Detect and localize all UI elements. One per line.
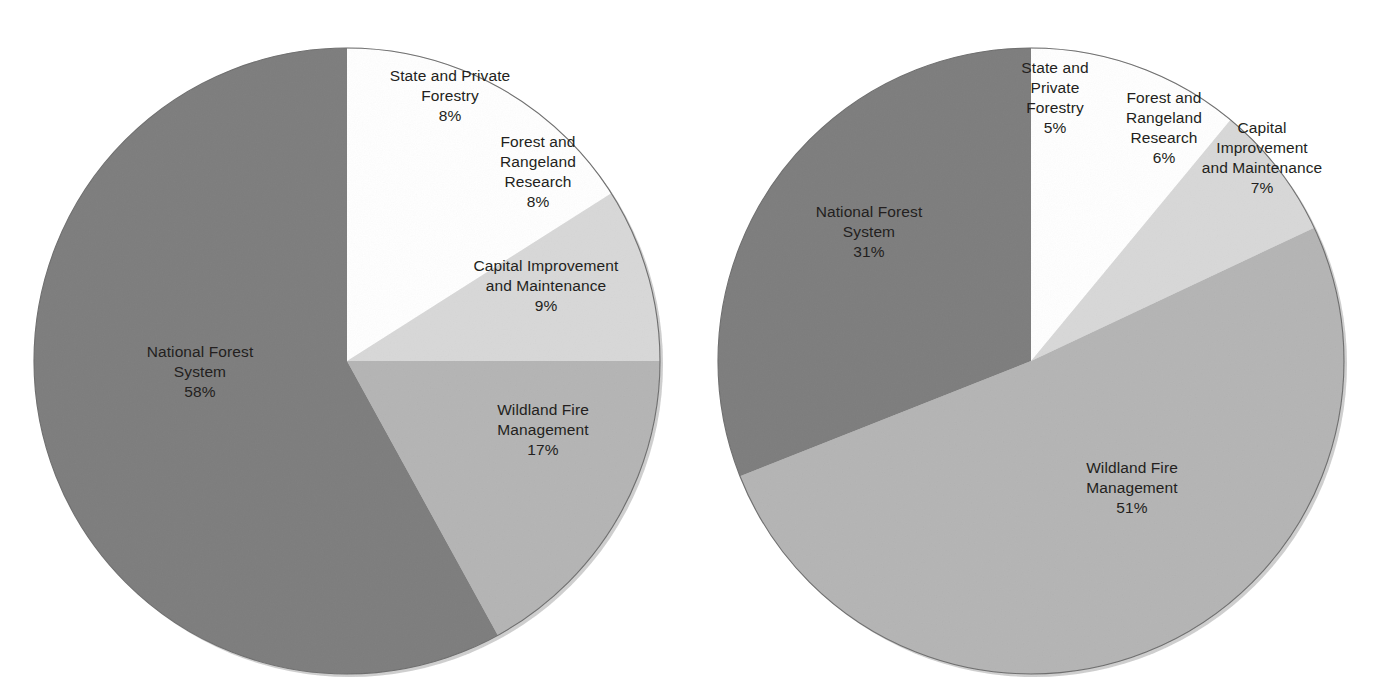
pie-chart-figure: State and Private Forestry 8% Forest and… [0,0,1373,687]
left-pie-chart [34,48,663,677]
pie-charts-canvas [0,0,1373,687]
right-pie-chart [718,48,1347,677]
